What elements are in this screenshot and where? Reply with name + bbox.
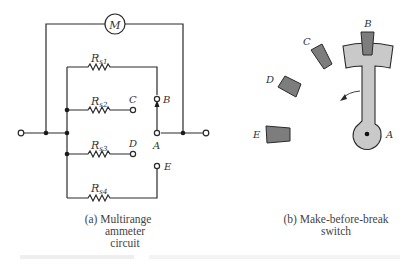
make-before-break-switch: B C D E A (b) Make-before-break switch — [252, 18, 393, 237]
terminal-c — [130, 107, 135, 112]
output-terminal — [203, 130, 209, 136]
cutoff-caption-strip — [20, 255, 400, 259]
resistor-label-rs2: Rs2 — [90, 95, 108, 109]
caption-b-line2: switch — [321, 225, 351, 237]
ammeter-circuit: M Rs1 Rs2 Rs3 Rs4 — [18, 14, 209, 249]
switch-label-d: D — [265, 74, 274, 85]
switch-label-b: B — [363, 18, 371, 29]
pivot-dot — [365, 132, 370, 137]
label-c: C — [129, 94, 137, 105]
label-a: A — [152, 140, 160, 151]
contact-b — [361, 32, 374, 55]
meter-label: M — [108, 19, 121, 32]
label-b: B — [162, 94, 170, 105]
contact-d — [278, 76, 301, 97]
figure-canvas: M Rs1 Rs2 Rs3 Rs4 — [0, 0, 410, 261]
resistor-label-rs4: Rs4 — [90, 182, 107, 196]
label-d: D — [128, 138, 137, 149]
caption-a-line3: circuit — [110, 237, 140, 249]
terminal-a — [154, 130, 159, 135]
switch-label-e: E — [252, 129, 261, 140]
terminal-d — [130, 151, 135, 156]
resistor-label-rs1: Rs1 — [90, 52, 107, 66]
caption-a-line2: ammeter — [105, 225, 145, 237]
contact-e — [266, 126, 290, 143]
switch-label-c: C — [303, 36, 311, 47]
resistor-label-rs3: Rs3 — [90, 139, 108, 153]
contact-c — [311, 44, 332, 69]
input-terminal — [18, 130, 24, 136]
terminal-e — [154, 163, 159, 168]
terminal-b — [154, 96, 159, 101]
switch-label-a: A — [385, 129, 393, 140]
label-e: E — [163, 161, 172, 172]
